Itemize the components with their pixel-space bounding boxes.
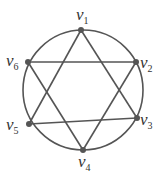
vertex-v2: [133, 59, 139, 65]
vertex-label-v2: v2: [140, 53, 153, 74]
vertex-label-v3: v3: [140, 110, 153, 131]
edges-group: [28, 30, 137, 150]
vertex-label-v5: v5: [6, 115, 19, 136]
graph-canvas: v1v2v3v4v5v6: [0, 0, 165, 182]
edge-v5-v3: [29, 118, 137, 124]
outer-circle: [23, 30, 143, 150]
vertex-label-v6: v6: [6, 51, 19, 72]
vertex-label-v4: v4: [78, 152, 91, 173]
graph-diagram: v1v2v3v4v5v6: [0, 0, 165, 182]
vertex-v6: [25, 59, 31, 65]
vertex-label-v1: v1: [76, 5, 89, 26]
vertex-v1: [78, 27, 84, 33]
vertex-v5: [26, 121, 32, 127]
